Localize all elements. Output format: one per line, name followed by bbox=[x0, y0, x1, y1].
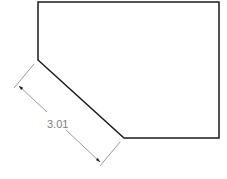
dimension-line-upper bbox=[19, 86, 47, 112]
dimension-label: 3.01 bbox=[47, 118, 68, 130]
dimension-line-lower bbox=[66, 130, 100, 162]
extension-line-top bbox=[14, 64, 34, 88]
cad-drawing: 3.01 bbox=[0, 0, 227, 179]
extension-line-bottom bbox=[100, 142, 120, 166]
